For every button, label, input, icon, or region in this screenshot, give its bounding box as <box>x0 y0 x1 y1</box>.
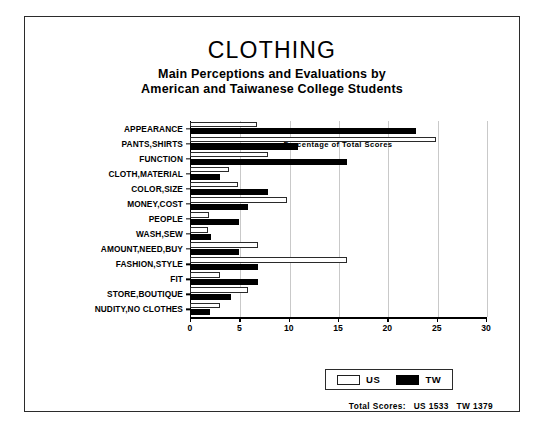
category-label: MONEY,COST <box>127 199 183 209</box>
bar-us <box>190 272 220 278</box>
bar-tw <box>190 128 416 134</box>
bar-us <box>190 122 257 128</box>
bar-us <box>190 137 436 143</box>
chart-row: FASHION,STYLE <box>190 257 486 272</box>
footer-totals: Total Scores: US 1533 TW 1379 <box>25 401 493 411</box>
x-axis-tick-label: 10 <box>284 323 294 333</box>
legend-swatch-us <box>337 375 360 385</box>
grid-line <box>487 121 488 317</box>
subtitle-line-1: Main Perceptions and Evaluations by <box>25 67 519 82</box>
x-axis-tick <box>289 317 290 322</box>
bar-tw <box>190 189 268 195</box>
chart-row: MONEY,COST <box>190 196 486 211</box>
bar-tw <box>190 279 258 285</box>
x-axis-tick-label: 15 <box>333 323 343 333</box>
footer-label: Total Scores: <box>349 401 406 411</box>
chart-frame: CLOTHING Main Perceptions and Evaluation… <box>24 16 520 412</box>
x-axis-tick <box>190 317 191 322</box>
category-label: PANTS,SHIRTS <box>122 139 183 149</box>
bar-tw <box>190 264 258 270</box>
x-axis-tick-label: 0 <box>188 323 193 333</box>
x-axis-tick <box>239 317 240 322</box>
category-label: COLOR,SIZE <box>131 184 183 194</box>
x-axis-tick-label: 20 <box>383 323 393 333</box>
bar-tw <box>190 159 347 165</box>
bar-tw <box>190 294 231 300</box>
page-title: CLOTHING <box>25 37 519 63</box>
bar-us <box>190 167 229 173</box>
chart-row: COLOR,SIZE <box>190 181 486 196</box>
bar-us <box>190 197 287 203</box>
bar-us <box>190 257 347 263</box>
legend: US TW <box>325 369 453 390</box>
x-axis-tick-label: 5 <box>237 323 242 333</box>
legend-swatch-tw <box>396 375 419 385</box>
legend-label-us: US <box>366 374 380 385</box>
bar-us <box>190 212 209 218</box>
category-label: APPEARANCE <box>124 124 183 134</box>
legend-item-tw: TW <box>396 374 441 385</box>
chart-row: APPEARANCE <box>190 121 486 136</box>
x-axis-tick <box>437 317 438 322</box>
category-label: FIT <box>170 274 183 284</box>
bar-us <box>190 303 220 309</box>
plot-region: 051015202530 Percentage of Total Scores … <box>190 121 486 317</box>
category-label: AMOUNT,NEED,BUY <box>101 244 183 254</box>
category-label: PEOPLE <box>149 214 183 224</box>
legend-label-tw: TW <box>425 374 441 385</box>
chart-row: AMOUNT,NEED,BUY <box>190 242 486 257</box>
category-label: FUNCTION <box>139 154 183 164</box>
bar-us <box>190 242 258 248</box>
subtitle-line-2: American and Taiwanese College Students <box>25 82 519 97</box>
bar-us <box>190 152 268 158</box>
footer-us-total: US 1533 <box>414 401 449 411</box>
title-block: CLOTHING Main Perceptions and Evaluation… <box>25 37 519 97</box>
bar-tw <box>190 174 220 180</box>
x-axis: 051015202530 <box>190 317 486 319</box>
x-axis-tick <box>338 317 339 322</box>
legend-item-us: US <box>337 374 380 385</box>
x-axis-tick-label: 25 <box>432 323 442 333</box>
chart-row: PEOPLE <box>190 211 486 226</box>
bar-tw <box>190 309 210 315</box>
bar-tw <box>190 234 211 240</box>
chart-row: NUDITY,NO CLOTHES <box>190 302 486 317</box>
bar-us <box>190 227 208 233</box>
footer-tw-total: TW 1379 <box>457 401 493 411</box>
chart-row: WASH,SEW <box>190 227 486 242</box>
x-axis-tick <box>387 317 388 322</box>
category-label: FASHION,STYLE <box>116 259 183 269</box>
bar-tw <box>190 204 248 210</box>
chart-row: PANTS,SHIRTS <box>190 136 486 151</box>
bar-us <box>190 287 248 293</box>
chart-row: FUNCTION <box>190 151 486 166</box>
category-label: CLOTH,MATERIAL <box>108 169 183 179</box>
category-label: WASH,SEW <box>136 229 183 239</box>
category-label: NUDITY,NO CLOTHES <box>95 304 183 314</box>
category-label: STORE,BOUTIQUE <box>107 289 183 299</box>
bar-tw <box>190 219 239 225</box>
chart-row: CLOTH,MATERIAL <box>190 166 486 181</box>
chart-row: STORE,BOUTIQUE <box>190 287 486 302</box>
bar-tw <box>190 143 298 149</box>
bar-us <box>190 182 238 188</box>
chart-row: FIT <box>190 272 486 287</box>
bar-tw <box>190 249 239 255</box>
x-axis-tick <box>486 317 487 322</box>
x-axis-tick-label: 30 <box>481 323 491 333</box>
